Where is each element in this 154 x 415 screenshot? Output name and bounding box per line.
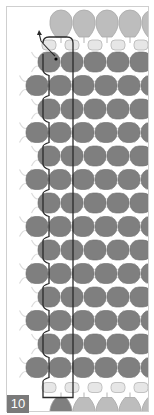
drop-bead	[142, 398, 148, 412]
seed-bead	[72, 170, 94, 190]
seed-bead	[107, 287, 129, 307]
seed-bead	[38, 146, 60, 166]
seed-bead	[118, 123, 140, 143]
seed-bead	[130, 99, 148, 119]
drop-bead	[50, 398, 72, 412]
drop-bead	[119, 398, 141, 412]
seed-bead	[130, 334, 148, 354]
seed-bead	[38, 240, 60, 260]
seed-bead	[38, 287, 60, 307]
seed-bead	[141, 358, 148, 378]
seed-bead	[61, 146, 83, 166]
seed-bead	[26, 264, 48, 284]
seed-bead	[95, 217, 117, 237]
seed-bead	[61, 193, 83, 213]
seed-bead	[95, 264, 117, 284]
seed-bead	[38, 52, 60, 72]
seed-bead	[84, 334, 106, 354]
seed-bead	[61, 52, 83, 72]
seed-bead	[130, 240, 148, 260]
seed-bead	[107, 52, 129, 72]
small-bead	[111, 383, 125, 393]
seed-bead	[95, 123, 117, 143]
seed-bead	[72, 264, 94, 284]
drop-bead	[96, 10, 118, 37]
small-bead	[42, 383, 56, 393]
seed-bead	[38, 193, 60, 213]
seed-bead	[141, 170, 148, 190]
small-bead	[65, 40, 79, 50]
seed-bead	[141, 76, 148, 96]
seed-bead	[72, 358, 94, 378]
seed-bead	[95, 311, 117, 331]
seed-bead	[84, 146, 106, 166]
seed-bead	[38, 99, 60, 119]
seed-bead	[95, 76, 117, 96]
seed-bead	[107, 334, 129, 354]
seed-bead	[107, 240, 129, 260]
seed-bead	[49, 123, 71, 143]
seed-bead	[141, 311, 148, 331]
seed-bead	[61, 287, 83, 307]
seed-bead	[38, 334, 60, 354]
seed-bead	[26, 123, 48, 143]
diagram-frame	[6, 6, 149, 412]
small-bead	[134, 383, 148, 393]
seed-bead	[61, 334, 83, 354]
seed-bead	[26, 76, 48, 96]
seed-bead	[49, 76, 71, 96]
seed-bead	[141, 264, 148, 284]
seed-bead	[118, 76, 140, 96]
seed-bead	[107, 193, 129, 213]
seed-bead	[84, 52, 106, 72]
seed-bead	[49, 170, 71, 190]
seed-bead	[49, 264, 71, 284]
drop-bead	[96, 398, 118, 412]
drop-bead	[50, 10, 72, 37]
seed-bead	[107, 99, 129, 119]
drop-bead	[73, 10, 95, 37]
seed-bead	[118, 358, 140, 378]
seed-bead	[84, 193, 106, 213]
seed-bead	[107, 146, 129, 166]
seed-bead	[118, 170, 140, 190]
seed-bead	[141, 217, 148, 237]
seed-bead	[130, 146, 148, 166]
drop-bead	[119, 10, 141, 37]
seed-bead	[95, 358, 117, 378]
seed-bead	[84, 240, 106, 260]
seed-bead	[118, 217, 140, 237]
seed-bead	[72, 76, 94, 96]
seed-bead	[118, 264, 140, 284]
seed-bead	[84, 287, 106, 307]
small-bead	[134, 40, 148, 50]
seed-bead	[26, 217, 48, 237]
seed-bead	[72, 123, 94, 143]
seed-bead	[130, 193, 148, 213]
seed-bead	[72, 217, 94, 237]
seed-bead	[61, 99, 83, 119]
needle-entry-dot	[54, 57, 57, 60]
drop-bead	[142, 10, 148, 37]
seed-bead	[26, 170, 48, 190]
seed-bead	[141, 123, 148, 143]
seed-bead	[26, 311, 48, 331]
seed-bead	[130, 52, 148, 72]
step-number-badge: 10	[7, 395, 29, 413]
seed-bead	[72, 311, 94, 331]
small-bead	[88, 383, 102, 393]
arrow-icon	[37, 30, 42, 35]
drop-bead	[73, 398, 95, 412]
small-bead	[65, 383, 79, 393]
seed-bead	[26, 358, 48, 378]
seed-bead	[118, 311, 140, 331]
seed-bead	[49, 217, 71, 237]
beadwork-diagram	[7, 7, 148, 411]
seed-bead	[130, 287, 148, 307]
seed-bead	[49, 358, 71, 378]
seed-bead	[49, 311, 71, 331]
small-bead	[88, 40, 102, 50]
seed-bead	[61, 240, 83, 260]
small-bead	[111, 40, 125, 50]
seed-bead	[84, 99, 106, 119]
